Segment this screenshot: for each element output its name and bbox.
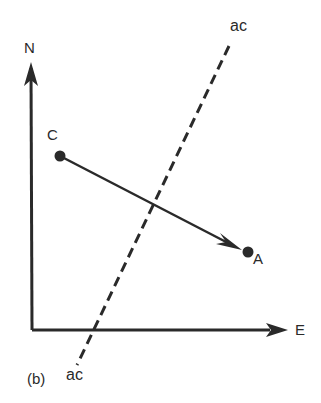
north-axis	[24, 62, 38, 330]
north-label: N	[24, 40, 35, 55]
point-c-dot	[55, 151, 66, 162]
point-c-label: C	[47, 127, 58, 142]
point-a-dot	[243, 247, 254, 258]
panel-label: (b)	[27, 371, 45, 386]
point-a-label: A	[253, 251, 263, 266]
vector-c-to-a	[60, 156, 242, 250]
east-label: E	[295, 322, 305, 337]
ac-bottom-label: ac	[66, 367, 83, 383]
east-axis	[32, 323, 288, 337]
vector-arrow-icon	[216, 233, 242, 250]
ac-top-label: ac	[230, 18, 247, 34]
diagram-graphics	[0, 0, 321, 403]
diagram-canvas: N E C A ac ac (b)	[0, 0, 321, 403]
